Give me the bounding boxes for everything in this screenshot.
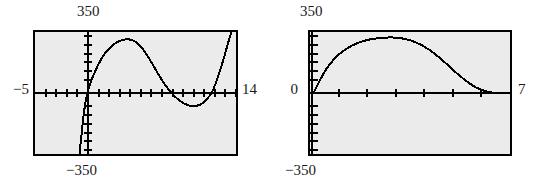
right-panel-xmin-label: 0 <box>282 82 298 97</box>
left-panel-ymin-label: −350 <box>66 163 97 178</box>
right-calculator-screen[interactable] <box>308 30 512 156</box>
right-curve-path <box>314 37 511 93</box>
screenshot-root: 350 −5 14 −350 <box>0 0 535 191</box>
left-calculator-panel: 350 −5 14 −350 <box>0 0 268 191</box>
left-panel-xmin-label: −5 <box>2 82 29 97</box>
left-calculator-screen[interactable] <box>33 30 238 156</box>
left-panel-xmax-label: 14 <box>242 82 257 97</box>
right-panel-ymax-label: 350 <box>300 4 323 19</box>
right-calculator-panel: 350 0 7 −350 <box>268 0 535 191</box>
left-plot-svg <box>35 32 236 154</box>
right-plot-svg <box>310 32 510 154</box>
right-panel-ymin-label: −350 <box>285 163 316 178</box>
right-panel-xmax-label: 7 <box>518 82 526 97</box>
left-panel-ymax-label: 350 <box>77 4 100 19</box>
